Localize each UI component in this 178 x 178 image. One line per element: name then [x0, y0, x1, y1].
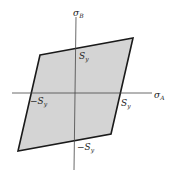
yield-locus-diagram: σB σA Sy Sy −Sy −Sy [0, 0, 178, 178]
intercept-bottom-label: −Sy [77, 142, 95, 154]
axis-label-sigma-a: σA [154, 90, 165, 101]
intercept-right-label: Sy [121, 98, 131, 110]
axis-label-sigma-b: σB [73, 8, 84, 19]
